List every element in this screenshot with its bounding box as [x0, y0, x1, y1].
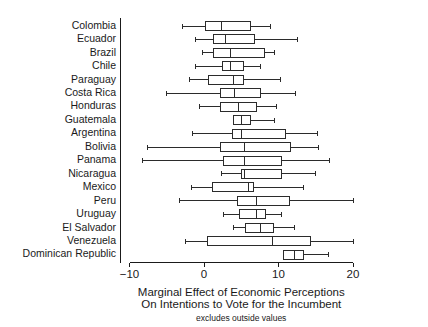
category-label: Paraguay — [71, 73, 117, 85]
box-group — [189, 75, 281, 84]
box-group — [167, 89, 296, 98]
box-group — [196, 35, 298, 44]
category-label: Guatemala — [65, 113, 117, 125]
x-axis-tick-label: 10 — [272, 268, 285, 280]
box-iqr — [220, 89, 260, 98]
box-group — [191, 183, 303, 192]
boxplot-series — [142, 22, 353, 260]
box-iqr — [238, 196, 290, 205]
box-group — [142, 156, 330, 165]
category-label: Mexico — [83, 180, 116, 192]
boxplot-chart: ColombiaEcuadorBrazilChileParaguayCosta … — [0, 0, 428, 327]
x-axis-tick-label: 0 — [201, 268, 207, 280]
x-axis-tick-label: 20 — [347, 268, 360, 280]
category-label: El Salvador — [62, 221, 116, 233]
box-group — [200, 102, 277, 111]
box-iqr — [223, 62, 244, 71]
category-label: Honduras — [70, 99, 116, 111]
category-label: Peru — [94, 194, 116, 206]
box-group — [179, 196, 353, 205]
box-iqr — [284, 250, 303, 259]
category-label: Bolivia — [85, 140, 116, 152]
category-label: Panama — [77, 153, 116, 165]
box-iqr — [223, 156, 281, 165]
box-group — [203, 48, 275, 57]
box-iqr — [208, 237, 311, 246]
box-group — [195, 62, 261, 71]
box-iqr — [246, 223, 274, 232]
x-axis-title-line2: On Intentions to Vote for the Incumbent — [141, 298, 342, 310]
box-group — [221, 169, 316, 178]
x-axis-tick-labels: −1001020 — [120, 268, 360, 280]
category-label: Chile — [92, 59, 116, 71]
box-group — [185, 237, 353, 246]
chart-note: excludes outside values — [196, 313, 286, 323]
box-iqr — [232, 129, 286, 138]
category-label: Dominican Republic — [23, 247, 116, 259]
box-iqr — [214, 48, 265, 57]
category-label: Brazil — [90, 46, 116, 58]
box-group — [223, 210, 281, 219]
boxplot-svg: ColombiaEcuadorBrazilChileParaguayCosta … — [0, 0, 428, 327]
category-axis-labels: ColombiaEcuadorBrazilChileParaguayCosta … — [23, 19, 117, 260]
category-label: Venezuela — [67, 234, 116, 246]
category-label: Ecuador — [77, 32, 117, 44]
box-group — [147, 143, 318, 152]
box-group — [234, 223, 295, 232]
box-group — [233, 116, 274, 125]
category-label: Costa Rica — [65, 86, 117, 98]
box-iqr — [241, 169, 281, 178]
box-group — [182, 22, 270, 31]
box-group — [284, 250, 329, 259]
box-iqr — [240, 210, 265, 219]
category-label: Colombia — [72, 19, 117, 31]
box-iqr — [214, 35, 255, 44]
category-label: Argentina — [71, 126, 116, 138]
box-group — [192, 129, 317, 138]
box-iqr — [212, 183, 253, 192]
box-iqr — [205, 22, 250, 31]
x-axis-title-line1: Marginal Effect of Economic Perceptions — [138, 286, 345, 298]
box-iqr — [220, 143, 290, 152]
category-label: Uruguay — [76, 207, 116, 219]
category-label: Nicaragua — [68, 167, 116, 179]
box-iqr — [208, 75, 243, 84]
x-axis-tick-label: −10 — [120, 268, 140, 280]
